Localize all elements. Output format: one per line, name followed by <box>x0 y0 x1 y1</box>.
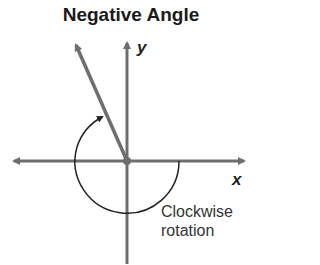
terminal-ray <box>76 45 127 161</box>
annotation-line-1: Clockwise <box>161 202 233 221</box>
y-axis-label: y <box>137 38 146 58</box>
origin-point <box>123 157 131 165</box>
rotation-annotation: Clockwise rotation <box>161 202 233 240</box>
x-axis-label: x <box>232 170 241 190</box>
annotation-line-2: rotation <box>161 221 233 240</box>
